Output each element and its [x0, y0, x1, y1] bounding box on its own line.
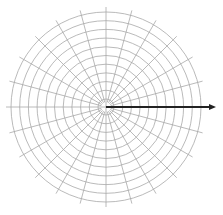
arrowhead-icon	[209, 104, 216, 110]
spoke	[9, 108, 101, 133]
spoke	[80, 10, 105, 102]
spoke	[110, 57, 192, 105]
spoke	[19, 109, 101, 157]
polar-grid-diagram	[0, 0, 223, 215]
spoke	[109, 110, 176, 177]
spoke	[111, 108, 203, 133]
spoke	[56, 20, 104, 102]
spoke	[107, 112, 132, 204]
spoke	[107, 10, 132, 102]
spoke	[108, 111, 156, 193]
spoke	[9, 81, 101, 106]
spoke	[111, 81, 203, 106]
spoke	[110, 109, 192, 157]
polar-grid-svg	[0, 0, 223, 215]
spoke	[35, 36, 102, 103]
spoke	[19, 57, 101, 105]
spoke	[108, 20, 156, 102]
spoke	[109, 36, 176, 103]
spoke	[35, 110, 102, 177]
spoke	[80, 112, 105, 204]
spoke	[56, 111, 104, 193]
